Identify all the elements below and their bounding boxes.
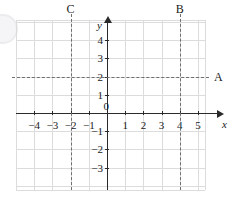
y-tick-label: −2 (85, 144, 103, 155)
gridline-horizontal (16, 131, 205, 132)
grid-border (205, 20, 206, 190)
grid-border (16, 20, 17, 190)
x-axis-tick (143, 111, 144, 115)
x-axis-tick (34, 111, 35, 115)
x-tick-label: 2 (133, 120, 153, 131)
x-axis (16, 113, 218, 114)
gridline-horizontal (16, 149, 205, 150)
x-tick-label: −3 (42, 120, 62, 131)
x-axis-tick (198, 111, 199, 115)
x-tick-label: 5 (188, 120, 208, 131)
gridline-horizontal (16, 186, 205, 187)
y-tick-label: 4 (85, 35, 103, 46)
gridline-vertical (143, 20, 144, 190)
line-label-a: A (214, 71, 223, 83)
x-axis-tick (125, 111, 126, 115)
x-tick-label: 3 (152, 120, 172, 131)
y-axis-tick (105, 58, 109, 59)
y-tick-label: 1 (85, 90, 103, 101)
gridline-horizontal (16, 95, 205, 96)
x-axis-tick (89, 111, 90, 115)
x-axis-arrowhead-icon (217, 110, 224, 118)
x-tick-label: −4 (24, 120, 44, 131)
y-axis-tick (105, 168, 109, 169)
gridline-vertical (52, 20, 53, 190)
grid-border (16, 190, 205, 191)
gridline-horizontal (16, 58, 205, 59)
y-tick-label: −1 (85, 126, 103, 137)
x-axis-label: x (222, 119, 227, 130)
y-tick-label: 3 (85, 53, 103, 64)
origin-label: 0 (99, 101, 109, 112)
gridline-horizontal (16, 40, 205, 41)
x-tick-label: 1 (115, 120, 135, 131)
y-axis-arrowhead-icon (104, 16, 112, 23)
dashed-line-c (71, 14, 72, 190)
coordinate-plane-figure: x y −4−3−2−1123454321−1−2−3 0 ABC (0, 0, 233, 203)
gridline-horizontal (16, 168, 205, 169)
line-label-b: B (172, 3, 188, 15)
y-axis-tick (105, 131, 109, 132)
y-axis-tick (105, 95, 109, 96)
x-axis-tick (162, 111, 163, 115)
y-axis-tick (105, 40, 109, 41)
gridline-vertical (125, 20, 126, 190)
gridline-vertical (198, 20, 199, 190)
line-label-c: C (63, 3, 79, 15)
gridline-vertical (34, 20, 35, 190)
y-axis-label: y (97, 20, 102, 31)
y-tick-label: −3 (85, 163, 103, 174)
dashed-line-b (180, 14, 181, 190)
y-axis-tick (105, 149, 109, 150)
gridline-vertical (162, 20, 163, 190)
x-axis-tick (52, 111, 53, 115)
